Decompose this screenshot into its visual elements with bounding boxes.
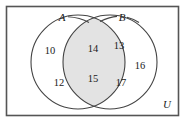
venn-diagram-figure: A B U 10 12 14 15 13 16 17 bbox=[0, 0, 187, 123]
element-b-only-top: 13 bbox=[114, 40, 125, 51]
element-b-only-right: 16 bbox=[135, 60, 146, 71]
element-intersection-bottom: 15 bbox=[88, 73, 99, 84]
set-b-label: B bbox=[119, 11, 126, 23]
set-a-label: A bbox=[58, 11, 66, 23]
element-intersection-top: 14 bbox=[88, 43, 99, 54]
element-a-only-bottom: 12 bbox=[54, 77, 65, 88]
universe-label: U bbox=[163, 98, 172, 110]
element-a-only-top: 10 bbox=[45, 45, 56, 56]
element-b-only-bottom: 17 bbox=[116, 77, 127, 88]
